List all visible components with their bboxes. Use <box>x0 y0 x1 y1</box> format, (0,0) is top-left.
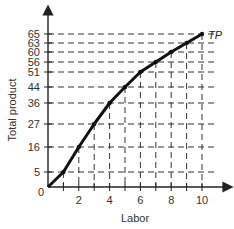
svg-text:65: 65 <box>28 28 40 40</box>
svg-text:8: 8 <box>168 194 174 206</box>
total-product-chart: 5162736445156606365246810 0 TP Labor Tot… <box>0 0 234 229</box>
svg-text:6: 6 <box>137 194 143 206</box>
svg-text:16: 16 <box>28 141 40 153</box>
origin-label: 0 <box>38 186 44 198</box>
svg-text:4: 4 <box>107 194 113 206</box>
x-axis-title: Labor <box>121 212 149 224</box>
svg-text:44: 44 <box>28 81 40 93</box>
svg-text:27: 27 <box>28 118 40 130</box>
svg-text:5: 5 <box>34 166 40 178</box>
svg-text:36: 36 <box>28 97 40 109</box>
dashed-guide-lines <box>48 34 215 187</box>
y-axis-title: Total product <box>6 79 18 142</box>
svg-text:2: 2 <box>76 194 82 206</box>
svg-text:10: 10 <box>196 194 208 206</box>
series-label-tp: TP <box>208 29 223 41</box>
